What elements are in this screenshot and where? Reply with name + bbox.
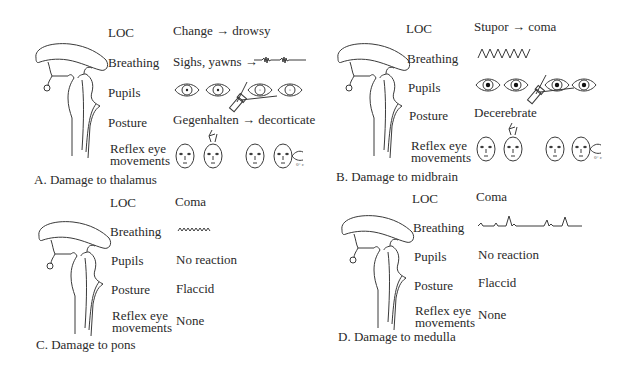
reflex-eye-faces-icon: 0° c (175, 128, 310, 170)
panel-midbrain: LOC Stupor → coma Breathing Pupils Postu… (310, 0, 629, 190)
breathing-pattern-icon (478, 214, 586, 228)
row-label-loc: LOC (108, 26, 134, 39)
row-value-pupils: No reaction (176, 253, 237, 266)
row-label-pupils: Pupils (414, 250, 447, 263)
row-label-posture: Posture (111, 283, 150, 296)
row-value-loc: Coma (476, 190, 507, 203)
row-value-reflex: None (478, 308, 506, 321)
panel-caption-pons: C. Damage to pons (36, 338, 136, 351)
row-value-loc: Coma (175, 195, 206, 208)
row-value-posture: Flaccid (176, 282, 214, 295)
row-label-breathing: Breathing (407, 52, 458, 65)
row-label-breathing: Breathing (413, 221, 464, 234)
row-value-posture: Flaccid (478, 276, 516, 289)
breathing-pattern-icon (178, 227, 212, 233)
row-label-pupils: Pupils (408, 81, 441, 94)
row-value-reflex: None (176, 314, 204, 327)
row-label-reflex-line2: movements (411, 152, 471, 164)
row-label-breathing: Breathing (108, 56, 159, 69)
pupils-icon (175, 80, 310, 115)
row-label-pupils: Pupils (108, 86, 141, 99)
breathing-pattern-icon (254, 54, 306, 66)
row-label-posture: Posture (108, 116, 147, 129)
row-label-posture: Posture (414, 279, 453, 292)
row-label-reflex-line2: movements (112, 322, 172, 334)
row-value-loc: Stupor → coma (474, 20, 556, 33)
row-value-loc: Change → drowsy (173, 24, 271, 37)
panel-pons: LOC Coma Breathing Pupils No reaction Po… (0, 180, 310, 365)
row-label-posture: Posture (409, 109, 448, 122)
ice-water-label: 0° c (594, 155, 603, 160)
breathing-pattern-icon (478, 48, 532, 60)
row-label-reflex-line2: movements (110, 155, 170, 167)
pupils-icon (476, 72, 611, 107)
row-value-posture: Gegenhalten → decorticate (173, 113, 315, 126)
brainstem-illustration (30, 40, 120, 160)
row-value-breathing: Sighs, yawns → (173, 55, 258, 68)
row-label-reflex-line2: movements (415, 317, 475, 329)
row-label-loc: LOC (412, 192, 438, 205)
row-label-pupils: Pupils (111, 254, 144, 267)
row-label-loc: LOC (406, 22, 432, 35)
panel-thalamus: LOC Change → drowsy Breathing Sighs, yaw… (0, 0, 310, 180)
row-label-breathing: Breathing (110, 225, 161, 238)
reflex-eye-faces-icon: 0° c (476, 123, 611, 165)
row-label-loc: LOC (110, 196, 136, 209)
panel-caption-medulla: D. Damage to medulla (338, 330, 456, 343)
row-value-posture: Decerebrate (474, 106, 537, 119)
panel-medulla: LOC Coma Breathing Pupils No reaction Po… (310, 180, 629, 365)
ice-water-label: 0° c (296, 162, 305, 167)
row-value-pupils: No reaction (478, 248, 539, 261)
